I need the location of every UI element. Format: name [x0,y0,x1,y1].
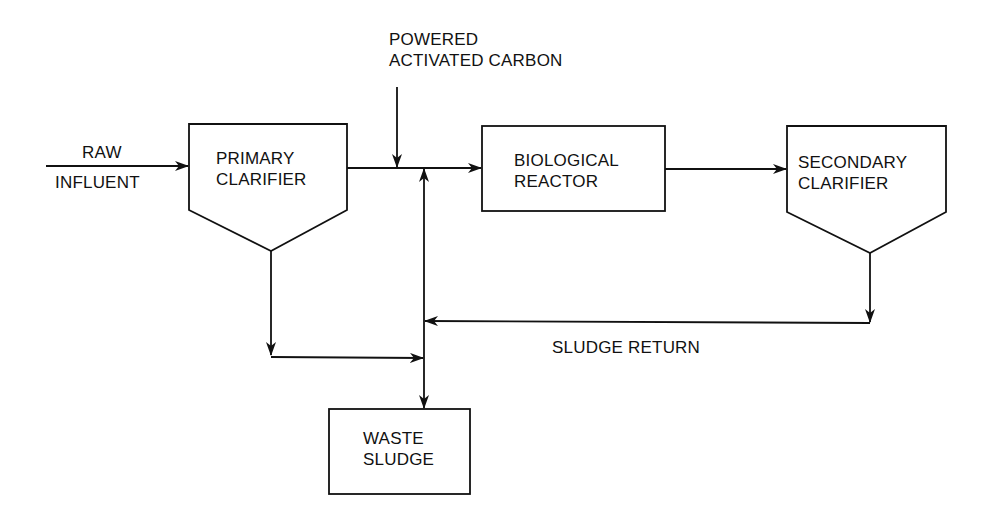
pac-label-line2: ACTIVATED CARBON [389,50,563,71]
sludge-return-label: SLUDGE RETURN [552,337,700,358]
primary-clarifier-line2: CLARIFIER [216,169,307,190]
waste-sludge-line1: WASTE [363,428,434,449]
raw-label-line2: INFLUENT [55,172,140,193]
secondary-clarifier-label: SECONDARY CLARIFIER [798,152,907,194]
sludge-return-arrow [425,321,870,323]
sludge-return-text: SLUDGE RETURN [552,338,700,357]
raw-label-line1: RAW [82,142,122,163]
biological-reactor-line1: BIOLOGICAL [514,150,619,171]
pac-label: POWERED ACTIVATED CARBON [389,29,563,71]
biological-reactor-line2: REACTOR [514,171,619,192]
secondary-clarifier-line2: CLARIFIER [798,173,907,194]
flow-diagram [0,0,985,517]
waste-sludge-label: WASTE SLUDGE [363,428,434,470]
primary-clarifier-line1: PRIMARY [216,148,307,169]
pac-label-line1: POWERED [389,29,563,50]
raw-influent-label: RAW [82,142,122,163]
primary-sludge-arrow [271,357,423,358]
secondary-clarifier-line1: SECONDARY [798,152,907,173]
influent-label: INFLUENT [55,172,140,193]
waste-sludge-line2: SLUDGE [363,449,434,470]
primary-clarifier-label: PRIMARY CLARIFIER [216,148,307,190]
biological-reactor-label: BIOLOGICAL REACTOR [514,150,619,192]
